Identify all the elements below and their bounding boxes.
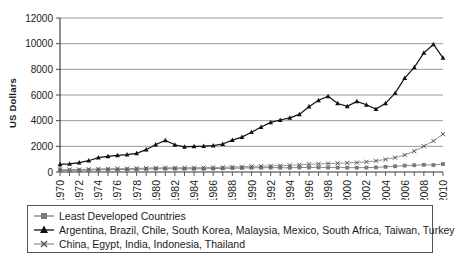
x-axis-tick-label: 2000	[341, 180, 353, 200]
x-axis-tick-label: 2004	[380, 180, 392, 200]
data-series-group	[58, 42, 446, 173]
x-axis-tick-label: 1970	[54, 180, 66, 200]
legend-label-asia-group: China, Egypt, India, Indonesia, Thailand	[59, 237, 245, 251]
y-axis-tick-label: 8000	[31, 64, 54, 75]
data-point-marker	[441, 162, 445, 166]
x-axis-tick-label: 1998	[322, 180, 334, 200]
x-axis-tick-label: 1982	[169, 180, 181, 200]
chart-legend: Least Developed Countries Argentina, Bra…	[27, 205, 433, 253]
chart-plot-area: 020004000600080001000012000 197019721974…	[0, 0, 459, 200]
y-axis-ticks-group	[56, 18, 60, 172]
data-point-marker	[431, 139, 435, 143]
data-point-marker	[307, 104, 312, 109]
data-point-marker	[317, 165, 321, 169]
y-axis-tick-label: 10000	[25, 38, 53, 49]
y-axis-tick-label: 4000	[31, 115, 54, 126]
y-axis-tick-labels-group: 020004000600080001000012000	[25, 13, 53, 178]
triangle-marker-icon	[33, 223, 55, 237]
x-axis-tick-label: 1984	[188, 180, 200, 200]
data-point-marker	[412, 149, 416, 153]
gridlines-group	[60, 18, 443, 146]
data-point-marker	[374, 165, 378, 169]
x-axis-tick-label: 1988	[226, 180, 238, 200]
x-axis-tick-label: 1974	[92, 180, 104, 200]
data-point-marker	[326, 94, 331, 99]
data-point-marker	[336, 166, 340, 170]
y-axis-tick-label: 6000	[31, 90, 54, 101]
data-point-marker	[354, 99, 359, 104]
legend-label-least-developed-countries: Least Developed Countries	[59, 209, 186, 223]
x-axis-tick-label: 1980	[150, 180, 162, 200]
data-point-marker	[403, 164, 407, 168]
x-axis-tick-label: 1986	[207, 180, 219, 200]
y-axis-tick-label: 2000	[31, 141, 54, 152]
x-axis-tick-label: 2010	[437, 180, 449, 200]
legend-label-upper-middle-income: Argentina, Brazil, Chile, South Korea, M…	[59, 223, 455, 237]
data-point-marker	[393, 164, 397, 168]
data-point-marker	[441, 132, 445, 136]
x-axis-tick-label: 1976	[111, 180, 123, 200]
data-point-marker	[163, 138, 168, 143]
series-line	[60, 134, 443, 169]
data-point-marker	[412, 163, 416, 167]
x-axis-tick-label: 1972	[73, 180, 85, 200]
y-axis-tick-label: 12000	[25, 13, 53, 24]
data-point-marker	[345, 166, 349, 170]
x-axis-tick-label: 1978	[131, 180, 143, 200]
x-axis-tick-label: 1990	[246, 180, 258, 200]
line-chart-svg: 020004000600080001000012000 197019721974…	[0, 0, 459, 200]
legend-item-asia-group: China, Egypt, India, Indonesia, Thailand	[33, 237, 427, 251]
y-axis-tick-label: 0	[47, 167, 53, 178]
x-axis-tick-label: 1996	[303, 180, 315, 200]
data-point-marker	[384, 165, 388, 169]
square-marker-icon	[33, 209, 55, 223]
figure-container: US Dollars 020004000600080001000012000 1…	[0, 0, 459, 262]
data-point-marker	[355, 166, 359, 170]
legend-item-upper-middle-income: Argentina, Brazil, Chile, South Korea, M…	[33, 223, 427, 237]
series-2	[58, 42, 446, 166]
data-point-marker	[365, 166, 369, 170]
data-point-marker	[326, 166, 330, 170]
x-axis-tick-labels-group: 1970197219741976197819801982198419861988…	[54, 180, 449, 200]
x-axis-tick-label: 2006	[399, 180, 411, 200]
x-axis-tick-label: 2008	[418, 180, 430, 200]
x-axis-tick-label: 1992	[265, 180, 277, 200]
x-axis-tick-label: 2002	[360, 180, 372, 200]
data-point-marker	[432, 163, 436, 167]
legend-item-least-developed-countries: Least Developed Countries	[33, 209, 427, 223]
x-axis-tick-label: 1994	[284, 180, 296, 200]
data-point-marker	[422, 163, 426, 167]
x-marker-icon	[33, 237, 55, 251]
x-axis-ticks-group	[60, 172, 443, 176]
